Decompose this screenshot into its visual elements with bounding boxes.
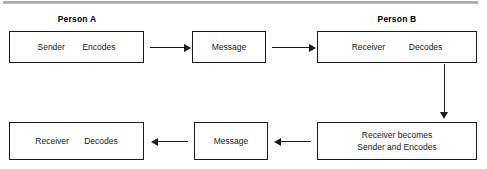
box-message-top: Message [192, 31, 266, 63]
arrow-head-down-icon [440, 112, 448, 119]
message-top-label: Message [212, 41, 247, 53]
person-a-heading: Person A [27, 14, 127, 24]
arrow-head-right-icon [184, 44, 191, 52]
box-sender-encodes: Sender Encodes [9, 31, 144, 63]
message-bottom-label: Message [214, 135, 249, 147]
receiver-becomes-line1: Receiver becomes [328, 129, 466, 141]
arrow-head-left-icon [274, 138, 281, 146]
sender-role-label: Sender [37, 41, 64, 53]
arrow-head-left-icon [151, 138, 158, 146]
box-receiver-decodes-top: Receiver Decodes [317, 31, 477, 63]
receiver-action-label-top: Decodes [409, 41, 443, 53]
receiver-role-label-bottom: Receiver [35, 135, 69, 147]
arrow-head-right-icon [309, 44, 316, 52]
top-divider-rule [3, 1, 478, 4]
arrow-shaft [158, 141, 188, 142]
arrow-shaft [281, 141, 311, 142]
arrow-shaft [272, 47, 309, 48]
sender-action-label: Encodes [82, 41, 115, 53]
receiver-becomes-line2: Sender and Encodes [328, 141, 466, 153]
communication-process-diagram: Person A Person B Sender Encodes Message… [0, 0, 487, 169]
person-b-heading: Person B [347, 14, 447, 24]
receiver-action-label-bottom: Decodes [84, 135, 118, 147]
box-receiver-decodes-bottom: Receiver Decodes [9, 122, 144, 160]
arrow-shaft [150, 47, 184, 48]
receiver-role-label-top: Receiver [352, 41, 386, 53]
box-message-bottom: Message [194, 122, 268, 160]
box-receiver-becomes-sender: Receiver becomes Sender and Encodes [317, 122, 477, 160]
arrow-shaft [444, 64, 445, 112]
